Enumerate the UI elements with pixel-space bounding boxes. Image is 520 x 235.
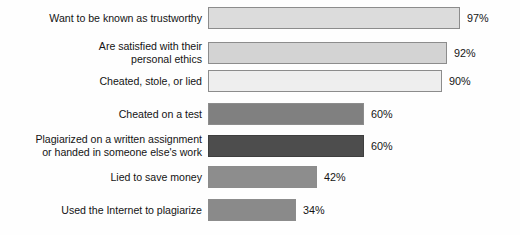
chart-row: Cheated, stole, or lied90%: [0, 70, 520, 92]
bar-track: 42%: [208, 166, 520, 188]
bar-category-label: Lied to save money: [0, 171, 208, 184]
chart-row: Used the Internet to plagiarize34%: [0, 199, 520, 221]
bar-track: 97%: [208, 7, 520, 29]
bar-category-label: Cheated, stole, or lied: [0, 75, 208, 88]
bar-track: 60%: [208, 135, 520, 157]
bar-category-label: Are satisfied with their personal ethics: [0, 40, 208, 65]
bar: [208, 166, 317, 188]
bar-value-label: 90%: [449, 75, 471, 87]
bar-value-label: 60%: [371, 140, 393, 152]
chart-row: Plagiarized on a written assignment or h…: [0, 133, 520, 158]
bar-value-label: 42%: [324, 171, 346, 183]
chart-row: Want to be known as trustworthy97%: [0, 7, 520, 29]
bar: [208, 199, 296, 221]
bar-category-label: Used the Internet to plagiarize: [0, 204, 208, 217]
chart-row: Lied to save money42%: [0, 166, 520, 188]
bar: [208, 135, 364, 157]
bar-value-label: 34%: [303, 204, 325, 216]
bar-track: 34%: [208, 199, 520, 221]
bar-track: 90%: [208, 70, 520, 92]
chart-row: Are satisfied with their personal ethics…: [0, 40, 520, 65]
bar-category-label: Cheated on a test: [0, 108, 208, 121]
bar-category-label: Plagiarized on a written assignment or h…: [0, 133, 208, 158]
chart-row: Cheated on a test60%: [0, 103, 520, 125]
bar: [208, 7, 460, 29]
bar-value-label: 92%: [454, 47, 476, 59]
bar-track: 92%: [208, 42, 520, 64]
bar-category-label: Want to be known as trustworthy: [0, 12, 208, 25]
bar: [208, 42, 447, 64]
bar-value-label: 60%: [371, 108, 393, 120]
horizontal-bar-chart: Want to be known as trustworthy97%Are sa…: [0, 0, 520, 235]
bar-value-label: 97%: [467, 12, 489, 24]
bar-track: 60%: [208, 103, 520, 125]
bar: [208, 103, 364, 125]
bar: [208, 70, 442, 92]
